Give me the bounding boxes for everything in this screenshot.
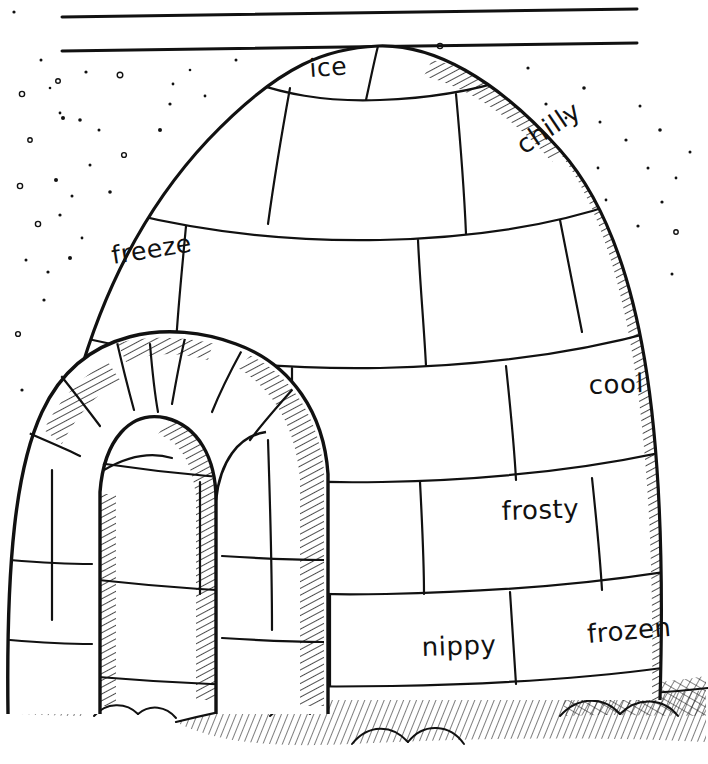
snowflake xyxy=(671,273,674,276)
snowflake xyxy=(544,102,547,105)
snowflake xyxy=(61,116,65,120)
word-label-frosty: frosty xyxy=(501,493,579,526)
snowflake xyxy=(81,237,84,240)
snowflake xyxy=(42,298,45,301)
snowflake xyxy=(59,112,62,115)
snowflake xyxy=(597,167,600,170)
snowflake xyxy=(599,121,602,124)
snowflake xyxy=(189,69,192,72)
snowflake xyxy=(58,213,61,216)
snowflake xyxy=(68,256,72,260)
snowflake xyxy=(172,83,175,86)
snowflake xyxy=(624,138,627,141)
snowflake xyxy=(12,10,15,13)
snowflake xyxy=(660,200,663,203)
snowflake xyxy=(89,164,92,167)
snowflake xyxy=(25,259,28,262)
snowflake xyxy=(639,105,642,108)
snowflake xyxy=(636,224,639,227)
word-label-ice: ice xyxy=(308,51,348,83)
snowflake xyxy=(647,167,650,170)
snowflake xyxy=(49,87,52,90)
snowflake xyxy=(78,118,82,122)
snowflake xyxy=(675,177,678,180)
word-label-cool: cool xyxy=(588,368,644,400)
snowflake xyxy=(71,195,74,198)
snowflake xyxy=(689,151,692,154)
snowflake xyxy=(158,128,162,132)
word-label-nippy: nippy xyxy=(421,629,497,662)
snowflake xyxy=(204,95,207,98)
snowflake xyxy=(526,66,529,69)
snowflake xyxy=(168,102,171,105)
snowflake xyxy=(658,128,662,132)
snowflake xyxy=(20,388,23,391)
snowflake xyxy=(40,59,43,62)
snowflake xyxy=(605,199,608,202)
snowflake xyxy=(235,59,238,62)
snowflake xyxy=(108,190,112,194)
igloo-illustration: icechillyfreezecoolfrostynippyfrozen xyxy=(0,0,708,764)
snowflake xyxy=(84,70,87,73)
snowflake xyxy=(582,86,586,90)
snowflake xyxy=(54,178,58,182)
snowflake xyxy=(98,129,101,132)
worksheet-page: icechillyfreezecoolfrostynippyfrozen ice… xyxy=(0,0,708,764)
snowflake xyxy=(46,270,49,273)
